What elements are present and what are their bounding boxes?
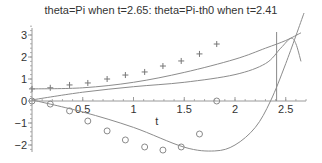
series-line [32,33,301,89]
plus-marker [85,80,91,86]
y-tick-label: 3 [21,29,27,41]
circle-marker [122,137,128,143]
plus-marker [196,51,202,57]
y-tick-label: −1 [14,117,27,129]
circle-marker [160,147,166,153]
series-line [32,38,301,100]
circle-marker [142,144,148,150]
x-tick-label: 1.5 [177,103,192,115]
plus-marker [67,82,73,88]
circle-marker [196,131,202,137]
plus-marker [122,72,128,78]
plus-marker [214,41,220,47]
y-tick-label: 1 [21,73,27,85]
x-tick-label: 2 [232,103,238,115]
plus-marker [104,76,110,82]
y-tick-label: 2 [21,51,27,63]
plot-area: 0.511.522.53210−1−2t [0,0,322,163]
x-tick-label: 2.5 [278,103,293,115]
y-tick-label: 0 [21,95,27,107]
data-series [29,13,304,153]
circle-marker [85,118,91,124]
series-line [32,13,304,151]
plus-marker [47,85,53,91]
plus-marker [160,63,166,69]
y-tick-label: −2 [14,139,27,151]
circle-marker [104,128,110,134]
plus-marker [178,58,184,64]
x-tick-label: 1 [130,103,136,115]
plus-marker [142,69,148,75]
x-axis-label: t [155,115,158,127]
